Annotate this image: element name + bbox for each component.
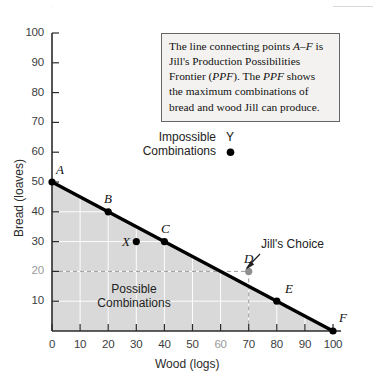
x-tick-70: 70 bbox=[234, 338, 264, 350]
y-tick-70: 70 bbox=[6, 115, 44, 127]
impossible-combinations-line2: Combinations bbox=[110, 145, 216, 158]
possible-combinations-line1: Possible bbox=[80, 283, 188, 296]
jills-choice-label: Jill's Choice bbox=[261, 238, 324, 251]
label-point-e: E bbox=[285, 282, 293, 296]
y-tick-100: 100 bbox=[6, 26, 44, 38]
callout-line3-em1: PPF bbox=[212, 70, 233, 82]
y-tick-60: 60 bbox=[6, 145, 44, 157]
x-tick-20: 20 bbox=[93, 338, 123, 350]
callout-line1-em: A–F bbox=[293, 40, 313, 52]
label-point-y: Y bbox=[226, 131, 234, 144]
point-c bbox=[161, 238, 168, 245]
y-tick-80: 80 bbox=[6, 86, 44, 98]
point-y bbox=[227, 148, 235, 156]
x-tick-80: 80 bbox=[262, 338, 292, 350]
point-e bbox=[273, 298, 280, 305]
x-tick-90: 90 bbox=[290, 338, 320, 350]
x-tick-30: 30 bbox=[121, 338, 151, 350]
ppf-callout-box: The line connecting points A–F is Jill's… bbox=[161, 33, 340, 122]
possible-combinations-line2: Combinations bbox=[80, 297, 188, 310]
x-tick-60: 60 bbox=[206, 338, 236, 350]
x-tick-40: 40 bbox=[149, 338, 179, 350]
callout-line3-mid: ). The bbox=[233, 70, 263, 82]
label-point-c: C bbox=[161, 222, 170, 236]
impossible-combinations-line1: Impossible bbox=[118, 131, 216, 144]
callout-line1-post: is bbox=[313, 40, 323, 52]
point-a bbox=[48, 178, 55, 185]
callout-line1-pre: The line connecting points bbox=[169, 40, 293, 52]
y-tick-10: 10 bbox=[6, 294, 44, 306]
y-tick-20: 20 bbox=[6, 264, 44, 276]
point-b bbox=[105, 208, 112, 215]
y-tick-90: 90 bbox=[6, 56, 44, 68]
x-tick-50: 50 bbox=[178, 338, 208, 350]
label-point-a: A bbox=[56, 163, 64, 177]
x-axis-title: Wood (logs) bbox=[155, 358, 219, 371]
label-point-d: D bbox=[244, 252, 253, 266]
x-tick-100: 100 bbox=[318, 338, 348, 350]
callout-line5: can produce. bbox=[261, 101, 319, 113]
point-d bbox=[245, 268, 252, 275]
ppf-figure: 100 90 80 70 60 50 40 30 20 10 0 10 20 3… bbox=[0, 0, 373, 384]
y-axis-title: Bread (loaves) bbox=[13, 159, 26, 237]
label-point-f: F bbox=[339, 311, 347, 325]
point-f bbox=[329, 327, 336, 334]
x-tick-10: 10 bbox=[65, 338, 95, 350]
label-point-b: B bbox=[104, 192, 112, 206]
label-point-x: X bbox=[122, 235, 130, 249]
point-x bbox=[133, 238, 140, 245]
callout-line3-em2: PPF bbox=[263, 70, 284, 82]
x-tick-0: 0 bbox=[37, 338, 67, 350]
